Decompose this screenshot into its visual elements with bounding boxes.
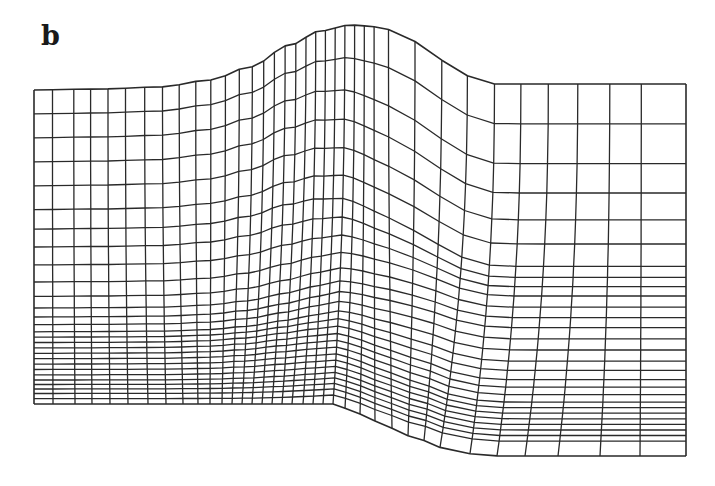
mesh-line	[303, 32, 316, 404]
mesh-grid-lines	[34, 25, 686, 456]
mesh-line	[424, 60, 442, 440]
mesh-boundary-line	[34, 25, 686, 90]
mesh-line	[34, 292, 686, 328]
mesh-line	[34, 252, 686, 296]
mesh-line	[600, 84, 610, 456]
mesh-line	[525, 84, 548, 456]
mesh-line	[34, 235, 686, 287]
mesh-line	[558, 84, 578, 456]
mesh-line	[640, 84, 641, 456]
mesh-line	[470, 84, 495, 454]
mesh-line	[34, 334, 686, 380]
mesh-line	[374, 27, 375, 421]
mesh-line	[34, 217, 686, 277]
mesh-line	[34, 119, 686, 193]
mesh-line	[34, 268, 686, 307]
mesh-line	[389, 30, 393, 429]
mesh-line	[34, 58, 686, 124]
computational-mesh	[0, 0, 715, 486]
mesh-line	[497, 84, 521, 456]
mesh-line	[34, 175, 686, 244]
mesh-line	[408, 42, 415, 436]
